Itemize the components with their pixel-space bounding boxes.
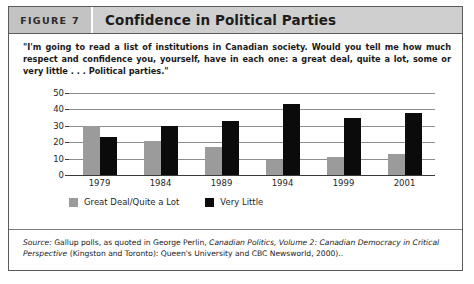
chart-plot-area: 01020304050	[69, 93, 435, 175]
x-tick-label: 1994	[252, 178, 313, 188]
y-tick-label: 10	[53, 154, 64, 164]
y-tick-label: 0	[59, 170, 64, 180]
figure-title-cell: Confidence in Political Parties	[93, 7, 462, 33]
legend-item: Very Little	[205, 197, 263, 207]
figure-number-cell: FIGURE 7	[9, 7, 93, 33]
chart-x-axis	[69, 175, 435, 176]
legend-label: Very Little	[220, 197, 263, 207]
chart-bar-group	[191, 93, 252, 175]
source-note: Source: Gallup polls, as quoted in Georg…	[23, 238, 451, 260]
chart-bar	[144, 141, 161, 175]
page-title: Confidence in Political Parties	[105, 12, 336, 28]
chart-bar	[205, 147, 222, 175]
x-tick-label: 1989	[191, 178, 252, 188]
chart-bar	[100, 137, 117, 175]
chart-bar-groups	[69, 93, 435, 175]
x-tick-label: 1979	[69, 178, 130, 188]
chart-bar-group	[313, 93, 374, 175]
y-tick-label: 50	[53, 88, 64, 98]
bar-chart: 01020304050 197919841989199419992001 Gre…	[23, 85, 451, 227]
chart-bar	[266, 160, 283, 175]
source-prefix: Source:	[23, 238, 52, 247]
x-tick-label: 1984	[130, 178, 191, 188]
chart-bar	[327, 157, 344, 175]
chart-bar	[222, 121, 239, 175]
legend-item: Great Deal/Quite a Lot	[69, 197, 179, 207]
x-tick-label: 1999	[313, 178, 374, 188]
figure-header: FIGURE 7 Confidence in Political Parties	[9, 7, 462, 34]
y-tick-label: 30	[53, 121, 64, 131]
chart-bar-group	[252, 93, 313, 175]
chart-bar	[83, 126, 100, 175]
figure-number-label: FIGURE 7	[20, 15, 80, 26]
chart-bar-group	[69, 93, 130, 175]
y-tick-label: 40	[53, 104, 64, 114]
source-text-1: Gallup polls, as quoted in George Perlin…	[52, 238, 209, 247]
chart-bar	[283, 104, 300, 175]
legend-label: Great Deal/Quite a Lot	[84, 197, 179, 207]
survey-question-quote: "I'm going to read a list of institution…	[23, 41, 451, 78]
chart-x-axis-labels: 197919841989199419992001	[69, 178, 435, 188]
y-tick-mark	[65, 175, 69, 176]
x-tick-label: 2001	[374, 178, 435, 188]
chart-bar	[344, 118, 361, 175]
y-tick-label: 20	[53, 137, 64, 147]
chart-bar-group	[130, 93, 191, 175]
chart-bar	[161, 126, 178, 175]
chart-bar	[405, 113, 422, 175]
chart-bar	[388, 154, 405, 175]
legend-swatch	[205, 198, 214, 207]
chart-legend: Great Deal/Quite a LotVery Little	[69, 197, 263, 207]
source-text-2: (Kingston and Toronto): Queen's Universi…	[67, 249, 343, 258]
source-divider	[9, 229, 462, 230]
legend-swatch	[69, 198, 78, 207]
figure-container: FIGURE 7 Confidence in Political Parties…	[8, 6, 463, 271]
chart-bar-group	[374, 93, 435, 175]
